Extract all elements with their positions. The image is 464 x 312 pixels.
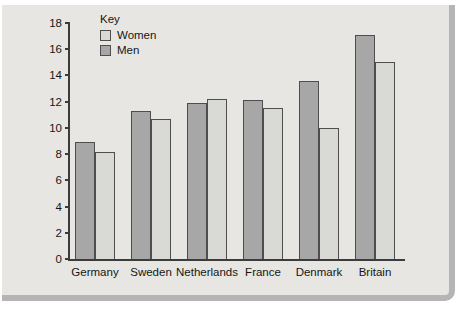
y-axis-tick: 6 (44, 174, 70, 186)
bar-group-denmark: Denmark (299, 81, 339, 259)
y-axis-tick-label: 14 (44, 69, 62, 81)
bar-group-britain: Britain (355, 35, 395, 259)
y-axis-tick-label: 6 (44, 174, 62, 186)
bar-group-germany: Germany (75, 142, 115, 259)
y-axis-tick-mark (65, 232, 70, 234)
legend-title: Key (100, 12, 156, 27)
bar-women-germany (95, 152, 115, 260)
y-axis-tick: 2 (44, 227, 70, 239)
bars-row: GermanySwedenNetherlandsFranceDenmarkBri… (70, 23, 405, 259)
y-axis-tick-mark (65, 258, 70, 260)
bar-group-france: France (243, 100, 283, 259)
x-axis-label: France (245, 266, 281, 278)
y-axis-tick-label: 18 (44, 17, 62, 29)
y-axis-tick: 12 (44, 96, 70, 108)
y-axis-tick-mark (65, 127, 70, 129)
x-axis-label: Netherlands (176, 266, 238, 278)
x-axis-label: Sweden (130, 266, 172, 278)
bar-men-sweden (131, 111, 151, 259)
bar-women-france (263, 108, 283, 259)
y-axis-tick: 18 (44, 17, 70, 29)
legend-item-women: Women (100, 28, 156, 43)
bar-men-france (243, 100, 263, 259)
bar-women-netherlands (207, 99, 227, 259)
y-axis-tick-label: 2 (44, 227, 62, 239)
bar-group-netherlands: Netherlands (187, 99, 227, 259)
y-axis-tick-mark (65, 74, 70, 76)
y-axis-tick-mark (65, 22, 70, 24)
bar-women-britain (375, 62, 395, 259)
y-axis-tick-label: 8 (44, 148, 62, 160)
legend-item-men: Men (100, 43, 156, 58)
chart-panel: GermanySwedenNetherlandsFranceDenmarkBri… (2, 5, 455, 301)
y-axis-tick: 8 (44, 148, 70, 160)
bar-men-netherlands (187, 103, 207, 259)
legend: Key WomenMen (100, 12, 156, 58)
bar-men-denmark (299, 81, 319, 259)
x-axis-label: Denmark (296, 266, 343, 278)
legend-swatch-icon (100, 45, 111, 56)
legend-swatch-icon (100, 30, 111, 41)
legend-items: WomenMen (100, 28, 156, 58)
legend-item-label: Women (117, 28, 156, 43)
y-axis-tick: 16 (44, 43, 70, 55)
bar-men-germany (75, 142, 95, 259)
y-axis-tick-label: 12 (44, 96, 62, 108)
y-axis-tick-label: 0 (44, 253, 62, 265)
legend-item-label: Men (117, 43, 139, 58)
chart-area: GermanySwedenNetherlandsFranceDenmarkBri… (2, 5, 449, 295)
bar-group-sweden: Sweden (131, 111, 171, 259)
plot-area: GermanySwedenNetherlandsFranceDenmarkBri… (68, 23, 405, 261)
bar-men-britain (355, 35, 375, 259)
y-axis-tick: 4 (44, 201, 70, 213)
y-axis-tick-mark (65, 206, 70, 208)
x-axis-label: Germany (71, 266, 118, 278)
bar-women-denmark (319, 128, 339, 259)
y-axis-tick-label: 16 (44, 43, 62, 55)
y-axis-tick: 0 (44, 253, 70, 265)
y-axis-tick-mark (65, 48, 70, 50)
y-axis-tick-mark (65, 153, 70, 155)
figure: GermanySwedenNetherlandsFranceDenmarkBri… (0, 0, 464, 312)
bar-women-sweden (151, 119, 171, 259)
y-axis-tick-label: 10 (44, 122, 62, 134)
y-axis-tick-label: 4 (44, 201, 62, 213)
y-axis-tick-mark (65, 179, 70, 181)
y-axis-tick: 10 (44, 122, 70, 134)
x-axis-label: Britain (359, 266, 392, 278)
y-axis-tick-mark (65, 101, 70, 103)
y-axis-tick: 14 (44, 69, 70, 81)
